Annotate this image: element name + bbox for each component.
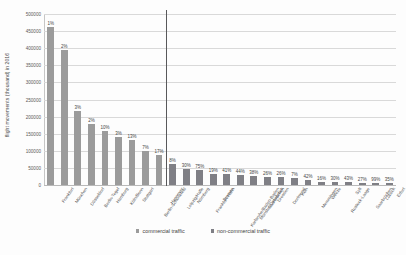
bar-slot: 75% bbox=[196, 14, 203, 185]
bar-value-label: 3% bbox=[115, 132, 122, 137]
bar-value-label: 7% bbox=[142, 146, 149, 151]
bar-slot: 16% bbox=[318, 14, 325, 185]
bar-value-label: 13% bbox=[127, 135, 136, 140]
bar-value-label: 16% bbox=[317, 177, 326, 182]
bar-value-label: 75% bbox=[195, 165, 204, 170]
bar-value-label: 1% bbox=[48, 22, 55, 27]
bar-value-label: 42% bbox=[303, 175, 312, 180]
bar-value-label: 26% bbox=[276, 172, 285, 177]
bar[interactable] bbox=[291, 178, 298, 185]
flight-movements-bar-chart: flight movements (thousand) in 2016 0500… bbox=[0, 0, 406, 255]
bar-slot: 35% bbox=[386, 14, 393, 185]
bar[interactable] bbox=[156, 155, 163, 185]
bar[interactable] bbox=[74, 111, 81, 185]
bar-value-label: 99% bbox=[371, 178, 380, 183]
x-axis-tick-label: Erfurt bbox=[397, 187, 406, 198]
bar-slot: 99% bbox=[372, 14, 379, 185]
bar-slot: 38% bbox=[250, 14, 257, 185]
bar[interactable] bbox=[169, 164, 176, 185]
bar-slot: 42% bbox=[305, 14, 312, 185]
bar-value-label: 44% bbox=[236, 170, 245, 175]
x-axis-tick-label: Frankfurt bbox=[61, 187, 75, 204]
bar[interactable] bbox=[88, 124, 95, 185]
bar-value-label: 27% bbox=[358, 178, 367, 183]
bar[interactable] bbox=[250, 176, 257, 185]
bar-value-label: 10% bbox=[100, 126, 109, 131]
bar-slot: 2% bbox=[61, 14, 68, 185]
bar-value-label: 41% bbox=[222, 169, 231, 174]
group-divider-line bbox=[166, 10, 167, 186]
bar[interactable] bbox=[210, 174, 217, 185]
bar[interactable] bbox=[305, 180, 312, 185]
bar-value-label: 2% bbox=[88, 119, 95, 124]
bar[interactable] bbox=[47, 27, 54, 185]
bar-slot: 26% bbox=[264, 14, 271, 185]
bar-value-label: 38% bbox=[249, 171, 258, 176]
bar-series-container: 1%2%3%2%10%3%13%7%17%8%30%75%19%41%44%38… bbox=[44, 14, 396, 185]
bar-value-label: 8% bbox=[169, 159, 176, 164]
bar-slot: 41% bbox=[223, 14, 230, 185]
legend-label-commercial: commercial traffic bbox=[142, 228, 184, 234]
bar-slot: 1% bbox=[47, 14, 54, 185]
bar[interactable] bbox=[102, 131, 109, 185]
legend-item-commercial: commercial traffic bbox=[136, 228, 185, 234]
bar[interactable] bbox=[223, 174, 230, 185]
bar-slot: 17% bbox=[156, 14, 163, 185]
x-axis-tick-label: Köln bbox=[301, 187, 310, 197]
bar-value-label: 30% bbox=[182, 164, 191, 169]
bar[interactable] bbox=[61, 50, 68, 185]
y-axis-tick-label: 500000 bbox=[26, 12, 41, 17]
bar-value-label: 26% bbox=[263, 172, 272, 177]
bar[interactable] bbox=[142, 151, 149, 185]
bar[interactable] bbox=[332, 182, 339, 185]
y-axis-tick-label: 450000 bbox=[26, 29, 41, 34]
bar-slot: 2% bbox=[88, 14, 95, 185]
gridline bbox=[44, 185, 396, 186]
y-axis-tick-label: 350000 bbox=[26, 63, 41, 68]
bar[interactable] bbox=[345, 182, 352, 185]
plot-area: 0500001000001500002000002500003000003500… bbox=[44, 14, 396, 185]
x-axis-tick-label: München bbox=[75, 187, 89, 204]
y-axis-title: flight movements (thousand) in 2016 bbox=[1, 0, 13, 190]
bar-slot: 26% bbox=[278, 14, 285, 185]
bar[interactable] bbox=[264, 177, 271, 185]
bar[interactable] bbox=[278, 177, 285, 185]
bar-value-label: 17% bbox=[155, 150, 164, 155]
bar-slot: 7% bbox=[291, 14, 298, 185]
bar-slot: 43% bbox=[345, 14, 352, 185]
legend-item-noncommercial: non-commercial traffic bbox=[211, 228, 270, 234]
bar-value-label: 19% bbox=[209, 169, 218, 174]
bar-slot: 44% bbox=[237, 14, 244, 185]
bar-slot: 8% bbox=[169, 14, 176, 185]
y-axis-tick-label: 50000 bbox=[28, 165, 41, 170]
bar[interactable] bbox=[237, 175, 244, 185]
bar[interactable] bbox=[372, 183, 379, 185]
bar[interactable] bbox=[183, 169, 190, 185]
bar-value-label: 30% bbox=[331, 177, 340, 182]
y-axis-tick-label: 0 bbox=[38, 183, 41, 188]
bar-slot: 10% bbox=[102, 14, 109, 185]
bar[interactable] bbox=[359, 183, 366, 185]
y-axis-tick-label: 300000 bbox=[26, 80, 41, 85]
bar-slot: 30% bbox=[183, 14, 190, 185]
bar[interactable] bbox=[196, 170, 203, 185]
bar[interactable] bbox=[318, 182, 325, 185]
legend-swatch-commercial-icon bbox=[136, 229, 139, 232]
y-axis-tick-label: 200000 bbox=[26, 114, 41, 119]
bar[interactable] bbox=[129, 140, 136, 185]
bar-slot: 3% bbox=[74, 14, 81, 185]
bar[interactable] bbox=[115, 137, 122, 185]
legend-label-noncommercial: non-commercial traffic bbox=[217, 228, 270, 234]
bar-value-label: 3% bbox=[75, 106, 82, 111]
bar-slot: 7% bbox=[142, 14, 149, 185]
y-axis-tick-label: 150000 bbox=[26, 131, 41, 136]
bar[interactable] bbox=[386, 183, 393, 185]
bar-value-label: 2% bbox=[61, 45, 68, 50]
bar-slot: 30% bbox=[332, 14, 339, 185]
bar-slot: 3% bbox=[115, 14, 122, 185]
y-axis-tick-label: 250000 bbox=[26, 97, 41, 102]
x-axis-tick-label: Bremen bbox=[223, 187, 235, 202]
y-axis-tick-label: 100000 bbox=[26, 148, 41, 153]
y-axis-tick-label: 400000 bbox=[26, 46, 41, 51]
legend-swatch-noncommercial-icon bbox=[211, 229, 214, 232]
